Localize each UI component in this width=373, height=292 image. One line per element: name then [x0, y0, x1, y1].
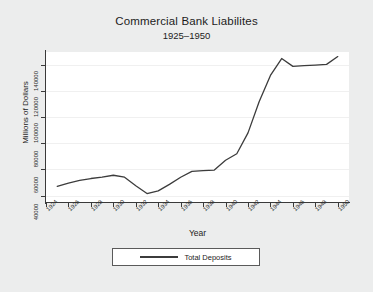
y-axis-line — [45, 50, 46, 204]
y-tick-mark — [41, 65, 45, 66]
chart-subtitle: 1925–1950 — [0, 29, 373, 42]
legend-item-total-deposits: Total Deposits — [140, 253, 231, 262]
title-block: Commercial Bank Liabilites 1925–1950 — [0, 14, 373, 42]
legend-line-swatch — [140, 256, 178, 257]
x-axis-title: Year — [46, 228, 349, 238]
chart-figure: Commercial Bank Liabilites 1925–1950 400… — [0, 0, 373, 292]
y-tick-mark — [41, 91, 45, 92]
legend: Total Deposits — [112, 248, 260, 266]
y-tick-label: 140000 — [33, 64, 39, 98]
plot-area — [46, 52, 349, 202]
y-tick-mark — [41, 143, 45, 144]
chart-title: Commercial Bank Liabilites — [0, 14, 373, 28]
legend-item-label: Total Deposits — [184, 253, 231, 262]
series-line-total-deposits — [57, 57, 338, 194]
y-axis-title: Millions of Dollars — [21, 63, 30, 163]
y-tick-mark — [41, 169, 45, 170]
data-series-layer — [46, 52, 349, 202]
y-tick-mark — [41, 196, 45, 197]
y-tick-mark — [41, 117, 45, 118]
